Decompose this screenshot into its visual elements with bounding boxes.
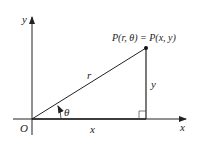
polar-coordinates-diagram: y x O P(r, θ) = P(x, y) r θ x y xyxy=(0,0,197,144)
right-angle-marker xyxy=(139,111,146,119)
vertical-leg-label: y xyxy=(150,78,156,90)
radius-label: r xyxy=(87,69,92,81)
angle-arc xyxy=(58,106,61,119)
horizontal-leg-label: x xyxy=(89,123,95,135)
point-p xyxy=(144,46,148,50)
radius-line xyxy=(32,48,146,119)
angle-label: θ xyxy=(64,106,70,118)
y-axis-label: y xyxy=(21,13,27,25)
point-label: P(r, θ) = P(x, y) xyxy=(111,32,177,44)
origin-label: O xyxy=(20,122,28,134)
x-axis-label: x xyxy=(179,121,185,133)
